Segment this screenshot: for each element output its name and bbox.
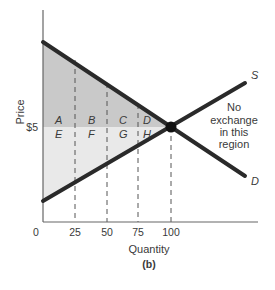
x-tick-75: 75 — [132, 226, 144, 238]
x-tick-50: 50 — [101, 226, 113, 238]
region-label-h: H — [143, 128, 151, 140]
region-label-a: A — [54, 114, 62, 126]
x-tick-100: 100 — [162, 226, 180, 238]
no-exchange-line-4: region — [219, 138, 250, 150]
figure-caption: (b) — [142, 258, 155, 270]
y-axis-title: Price — [14, 99, 26, 124]
no-exchange-line-3: in this — [220, 126, 249, 138]
x-tick-25: 25 — [69, 226, 81, 238]
y-tick-5: $5 — [26, 121, 38, 133]
equilibrium-point — [166, 122, 177, 133]
supply-label: S — [251, 69, 259, 81]
region-label-e: E — [55, 128, 63, 140]
region-label-d: D — [143, 114, 151, 126]
no-exchange-line-2: exchange — [210, 114, 258, 126]
x-tick-0: 0 — [33, 226, 39, 238]
x-axis-title: Quantity — [129, 243, 170, 255]
supply-demand-diagram: A B C D E F G H S D No exchange in this … — [0, 0, 275, 290]
no-exchange-line-1: No — [227, 101, 241, 113]
region-label-g: G — [119, 128, 128, 140]
region-label-c: C — [119, 114, 127, 126]
demand-label: D — [251, 175, 259, 187]
region-label-b: B — [88, 114, 95, 126]
